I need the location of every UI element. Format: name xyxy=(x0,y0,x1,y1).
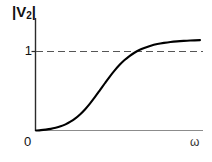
response-curve xyxy=(36,40,200,130)
plot-canvas xyxy=(0,0,212,162)
filter-response-figure: |V2| 1 0 ω xyxy=(0,0,212,162)
